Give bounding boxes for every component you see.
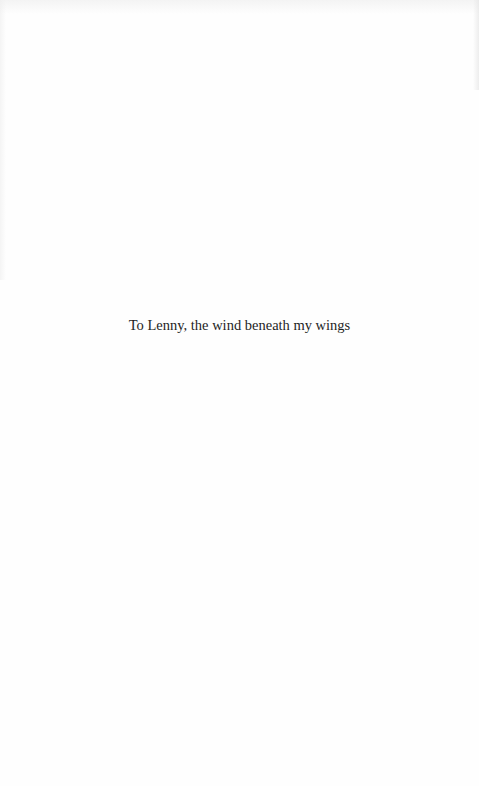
book-page: To Lenny, the wind beneath my wings	[0, 0, 479, 786]
dedication-text: To Lenny, the wind beneath my wings	[0, 316, 479, 334]
scan-edge-left	[0, 0, 6, 280]
scan-edge-top	[0, 0, 479, 14]
scan-edge-right	[473, 0, 479, 90]
